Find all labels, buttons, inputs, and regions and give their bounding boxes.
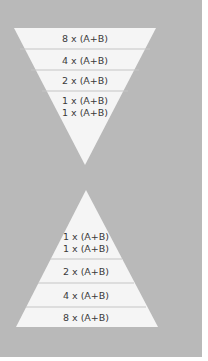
- top-tier-1-label: 8 x (A+B): [62, 33, 108, 44]
- bottom-tier-4-label: 8 x (A+B): [63, 312, 109, 323]
- top-tier-2-label: 4 x (A+B): [62, 55, 108, 66]
- bottom-pyramid: 1 x (A+B) 1 x (A+B) 2 x (A+B) 4 x (A+B) …: [16, 190, 158, 327]
- top-tier-4-label-line1: 1 x (A+B): [62, 95, 108, 106]
- top-funnel: 8 x (A+B) 4 x (A+B) 2 x (A+B) 1 x (A+B) …: [14, 28, 156, 165]
- pyramid-diagram: 8 x (A+B) 4 x (A+B) 2 x (A+B) 1 x (A+B) …: [0, 0, 208, 361]
- top-tier-3-label: 2 x (A+B): [62, 75, 108, 86]
- top-tier-4-label-line2: 1 x (A+B): [62, 107, 108, 118]
- bottom-tier-3-label: 4 x (A+B): [63, 290, 109, 301]
- bottom-tier-2-label: 2 x (A+B): [63, 266, 109, 277]
- bottom-tier-1-label-line1: 1 x (A+B): [63, 231, 109, 242]
- bottom-tier-1-label-line2: 1 x (A+B): [63, 243, 109, 254]
